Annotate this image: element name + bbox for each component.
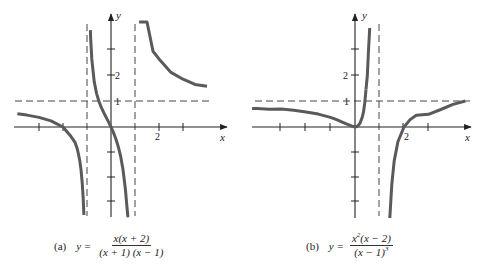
- y-axis-label-a: y: [115, 9, 121, 21]
- caption-b-denominator: (x − 1)3: [352, 246, 390, 259]
- caption-b-lhs: y =: [329, 240, 344, 252]
- y-tick-label-1-b: 1: [344, 96, 349, 107]
- figure-canvas: y x 2 1 2 y x 2 1 2: [0, 0, 481, 269]
- curve-left-branch-top: [366, 28, 370, 89]
- curve-left-branch: [252, 89, 366, 127]
- caption-b-fraction: x2(x − 2) (x − 1)3: [350, 232, 393, 259]
- x-axis-label-a: x: [219, 131, 225, 143]
- y-tick-label-1-a: 1: [115, 96, 120, 107]
- caption-a-label: (a): [54, 240, 66, 252]
- caption-a-lhs: y =: [76, 240, 91, 252]
- den-exp: 3: [385, 245, 389, 253]
- curve-left-branch: [17, 114, 84, 215]
- curve-right-branch: [139, 22, 207, 86]
- curves-a: [17, 22, 207, 216]
- caption-a-numerator: x(x + 2): [112, 232, 152, 246]
- curve-right-branch: [390, 101, 466, 218]
- panel-b: y x 2 1 2: [252, 9, 471, 218]
- caption-b: (b) y = x2(x − 2) (x − 1)3: [306, 232, 393, 259]
- x-tick-label-2-b: 2: [404, 131, 409, 142]
- den-base: (x − 1): [354, 246, 385, 258]
- num-rest: (x − 2): [360, 232, 391, 244]
- curve-middle-branch: [90, 30, 128, 216]
- caption-a-denominator: (x + 1) (x − 1): [97, 246, 165, 259]
- x-tick-label-2-a: 2: [155, 131, 160, 142]
- caption-b-label: (b): [306, 240, 319, 252]
- y-axis-label-b: y: [361, 9, 367, 21]
- caption-b-numerator: x2(x − 2): [350, 232, 393, 246]
- y-tick-label-2-a: 2: [115, 70, 120, 81]
- x-axis-label-b: x: [464, 131, 470, 143]
- panel-a: y x 2 1 2: [14, 9, 227, 217]
- caption-a-fraction: x(x + 2) (x + 1) (x − 1): [97, 232, 165, 259]
- y-tick-label-2-b: 2: [343, 70, 348, 81]
- curves-b: [252, 28, 465, 218]
- caption-a: (a) y = x(x + 2) (x + 1) (x − 1): [54, 232, 165, 259]
